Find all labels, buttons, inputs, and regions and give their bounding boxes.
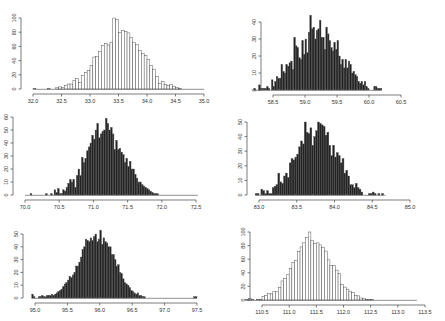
histogram-bar	[129, 161, 131, 195]
histogram-bar	[64, 284, 66, 298]
histogram-bar	[365, 299, 368, 300]
histogram-bar	[56, 192, 58, 195]
histogram-bar	[158, 83, 161, 89]
histogram-bar	[263, 88, 265, 90]
y-axis: 01020304050	[237, 119, 247, 197]
y-tick-label: 80	[11, 29, 17, 35]
y-axis: 010203040	[251, 19, 261, 92]
histogram-bar	[351, 73, 353, 90]
x-tick-label: 83.0	[254, 204, 265, 210]
histogram-bar	[69, 179, 71, 195]
y-tick-label: 40	[240, 270, 246, 276]
histogram-bar	[153, 194, 155, 195]
histogram-bar	[306, 132, 308, 195]
histogram-bar	[107, 124, 109, 196]
histogram-bar	[48, 295, 50, 298]
histogram-bar	[356, 76, 358, 90]
histogram-bar	[374, 194, 376, 195]
histogram-bar	[332, 51, 334, 90]
histogram-bar	[312, 145, 314, 195]
histogram-bar	[318, 29, 320, 90]
y-tick-label: 50	[3, 127, 9, 133]
x-tick-label: 84.0	[329, 204, 340, 210]
histogram-bar	[101, 46, 104, 89]
histogram-bar	[378, 194, 380, 195]
histogram-bar	[95, 234, 97, 298]
histogram-bar	[262, 297, 265, 300]
histogram-bar	[71, 182, 73, 195]
histogram-bar	[78, 169, 80, 195]
histogram-bar	[267, 87, 269, 90]
y-tick-label: 0	[240, 298, 246, 301]
y-tick-label: 60	[240, 256, 246, 262]
histogram-bar	[101, 244, 103, 298]
histogram-bar	[347, 68, 349, 90]
histogram-bar	[46, 194, 48, 195]
histogram-bar	[135, 294, 137, 298]
histogram-bar	[308, 232, 311, 300]
x-tick-label: 59.5	[332, 99, 343, 105]
histogram-bar	[90, 143, 92, 195]
histogram-bar	[364, 82, 366, 91]
histogram-bar	[41, 295, 43, 298]
histogram-bar	[176, 88, 179, 89]
histogram-bar	[33, 297, 35, 298]
histogram-bar	[321, 37, 323, 90]
y-tick-label: 0	[3, 193, 9, 196]
histogram-bar	[337, 41, 339, 90]
y-tick-label: 40	[11, 58, 17, 64]
histogram-bar	[302, 41, 304, 90]
y-tick-label: 20	[240, 283, 246, 289]
histogram-bar	[113, 18, 116, 89]
histogram-bar	[289, 63, 291, 90]
histogram-bar	[98, 239, 100, 298]
histogram-bar	[143, 186, 145, 195]
histogram-middle-right: 83.083.584.084.585.001020304050	[237, 119, 415, 210]
histogram-bar	[127, 33, 130, 89]
histogram-bar	[73, 179, 75, 195]
histogram-bar	[111, 127, 113, 195]
y-tick-label: 0	[237, 193, 243, 196]
y-axis: 0102030405060	[3, 114, 13, 197]
histogram-bar	[134, 174, 136, 195]
histogram-bar	[72, 275, 74, 298]
histogram-bar	[295, 261, 298, 300]
histogram-bar	[346, 289, 349, 300]
histogram-bar	[99, 138, 101, 195]
histogram-bar	[280, 182, 282, 195]
histogram-bar	[74, 272, 76, 298]
histogram-grid: 32.032.533.033.534.034.535.0020406080100…	[0, 0, 445, 321]
histogram-bar	[57, 189, 59, 196]
histogram-bar	[341, 284, 344, 300]
histogram-bar	[274, 186, 276, 195]
histogram-bar	[292, 263, 295, 300]
y-tick-label: 100	[11, 13, 17, 22]
histogram-bar	[64, 85, 67, 89]
y-tick-label: 10	[3, 179, 9, 185]
x-tick-label: 111.5	[310, 309, 323, 315]
y-tick-label: 10	[251, 70, 257, 76]
histogram-bar	[59, 194, 61, 195]
histogram-bar	[297, 252, 300, 300]
histogram-bar	[348, 176, 350, 195]
histogram-bar	[80, 257, 82, 298]
x-tick-label: 71.5	[122, 204, 133, 210]
histogram-bar	[75, 187, 77, 195]
histogram-bar	[138, 51, 141, 89]
histogram-bar	[77, 266, 79, 298]
histogram-bar	[56, 88, 59, 89]
histogram-bar	[93, 237, 95, 298]
histogram-bar	[84, 73, 87, 89]
histogram-bar	[124, 283, 126, 298]
x-tick-label: 95.0	[30, 307, 41, 313]
histogram-bar	[324, 49, 326, 90]
histogram-bar	[76, 266, 78, 298]
histogram-bar	[38, 297, 40, 298]
histogram-bar	[291, 61, 293, 90]
x-tick-label: 32.0	[28, 98, 39, 104]
histogram-bar	[32, 294, 34, 298]
histogram-bar	[284, 176, 286, 195]
histogram-bar	[99, 51, 102, 89]
histogram-bar	[366, 87, 368, 90]
histogram-bar	[314, 244, 317, 300]
